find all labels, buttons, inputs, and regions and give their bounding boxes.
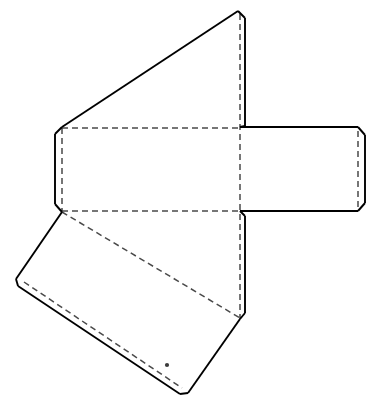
dieline-drawing bbox=[0, 0, 379, 409]
dieline-canvas bbox=[0, 0, 379, 409]
registration-dot bbox=[165, 363, 169, 367]
drawing-background bbox=[0, 0, 379, 409]
bottom-panel-bottom-vertex bbox=[180, 393, 188, 394]
markers-group bbox=[165, 363, 169, 367]
